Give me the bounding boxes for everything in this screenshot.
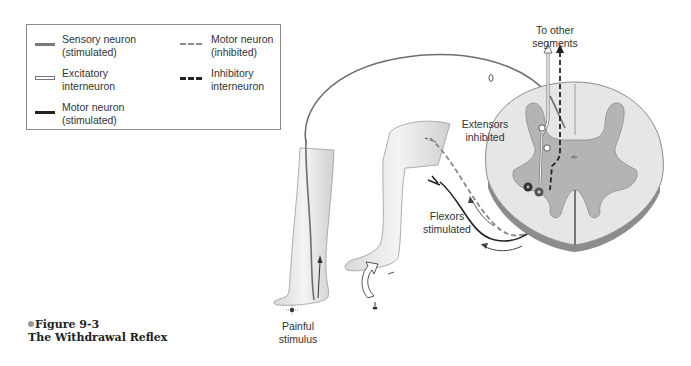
sensory-neuron-swatch	[35, 39, 55, 49]
dorsal-root-ganglion	[489, 75, 493, 82]
legend-item-motor-neuron-inhibited: Motor neuron (inhibited)	[180, 33, 273, 58]
tack-icon	[373, 302, 378, 310]
label-flexors-stimulated: Flexors stimulated	[412, 210, 482, 235]
figure-caption: Figure 9-3 The Withdrawal Reflex	[28, 318, 167, 344]
legend-label: Motor neuron (stimulated)	[62, 101, 124, 126]
legend-item-sensory-neuron: Sensory neuron (stimulated)	[35, 33, 136, 58]
tack-icon	[286, 305, 298, 315]
flexed-leg	[345, 121, 450, 271]
spinal-cord-cross-section	[486, 82, 664, 252]
legend-item-excitatory-interneuron: Excitatory interneuron	[35, 67, 115, 92]
excitatory-interneuron-swatch	[35, 73, 55, 83]
legend-label: Sensory neuron (stimulated)	[62, 33, 136, 58]
standing-leg	[274, 140, 334, 305]
legend: Sensory neuron (stimulated) Excitatory i…	[26, 24, 281, 130]
inhibitory-interneuron-swatch	[180, 73, 204, 83]
label-painful-stimulus: Painful stimulus	[268, 320, 328, 345]
motor-neuron-inhibited-swatch	[180, 39, 204, 49]
legend-label: Excitatory interneuron	[62, 67, 115, 92]
legend-label: Inhibitory interneuron	[211, 67, 264, 92]
label-to-other-segments: To other segments	[522, 24, 588, 49]
legend-label: Motor neuron (inhibited)	[211, 33, 273, 58]
legend-item-motor-neuron-stimulated: Motor neuron (stimulated)	[35, 101, 124, 126]
motor-neuron-stimulated-swatch	[35, 107, 55, 117]
legend-item-inhibitory-interneuron: Inhibitory interneuron	[180, 67, 264, 92]
bullet-icon	[28, 321, 34, 327]
figure-title: The Withdrawal Reflex	[28, 331, 167, 344]
figure-number: Figure 9-3	[35, 318, 99, 331]
label-extensors-inhibited: Extensors inhibited	[450, 118, 520, 143]
